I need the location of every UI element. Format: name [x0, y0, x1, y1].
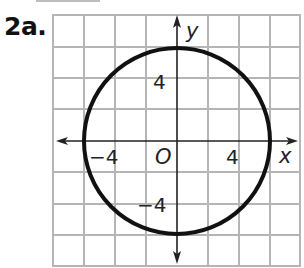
y-tick-4: 4: [153, 70, 166, 94]
x-tick-4: 4: [226, 145, 239, 169]
origin-label: O: [155, 145, 172, 169]
x-axis-label: x: [278, 144, 292, 168]
y-tick-neg-4: −4: [137, 193, 166, 217]
y-axis-label: y: [185, 19, 199, 43]
coordinate-graph: y x O 4 4 −4 −4: [0, 0, 304, 268]
x-tick-neg-4: −4: [89, 145, 118, 169]
